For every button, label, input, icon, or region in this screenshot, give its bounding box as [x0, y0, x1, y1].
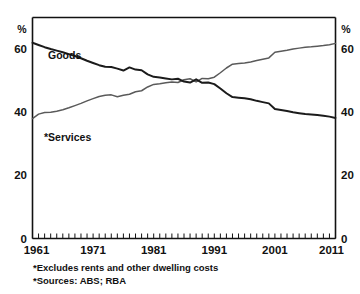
x-tick-label: 1971	[80, 244, 106, 256]
left-y-tick-label: 40	[14, 106, 27, 118]
footnote-excludes: *Excludes rents and other dwelling costs	[33, 262, 218, 275]
right-y-tick-label: 60	[341, 43, 354, 55]
x-tick-label: 1991	[202, 244, 228, 256]
x-tick-label: 1981	[141, 244, 167, 256]
left-y-tick-label: 20	[14, 169, 27, 181]
chart-figure: 0204060 0204060 196119711981199120012011…	[0, 0, 360, 294]
x-axis-ticks	[33, 234, 336, 239]
footnote-sources: *Sources: ABS; RBA	[33, 275, 218, 288]
right-y-tick-label: 40	[341, 106, 354, 118]
right-y-tick-labels: 0204060	[341, 43, 354, 244]
right-y-tick-label: 0	[341, 233, 347, 245]
left-y-tick-label: 0	[21, 233, 27, 245]
services-series-label: *Services	[44, 131, 91, 143]
right-y-tick-label: 20	[341, 169, 354, 181]
x-tick-label: 2011	[319, 244, 345, 256]
chart-footnotes: *Excludes rents and other dwelling costs…	[33, 262, 218, 287]
x-tick-label: 2001	[262, 244, 288, 256]
x-tick-label: 1961	[24, 244, 50, 256]
left-y-tick-label: 60	[14, 43, 27, 55]
goods-services-share-line-chart: 0204060 0204060 196119711981199120012011…	[0, 0, 360, 294]
left-y-tick-labels: 0204060	[14, 43, 27, 244]
x-tick-labels: 196119711981199120012011	[24, 244, 345, 256]
right-axis-unit-label: %	[341, 23, 351, 35]
left-axis-unit-label: %	[17, 23, 27, 35]
goods-series-label: Goods	[48, 49, 81, 61]
